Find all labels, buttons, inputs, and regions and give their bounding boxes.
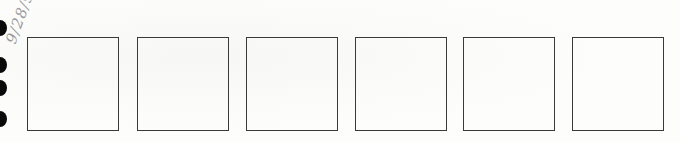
empty-box-3 — [246, 37, 338, 131]
empty-box-1 — [27, 37, 119, 131]
empty-box-5 — [463, 37, 555, 131]
empty-box-6 — [572, 37, 664, 131]
empty-box-2 — [137, 37, 229, 131]
empty-box-4 — [355, 37, 447, 131]
